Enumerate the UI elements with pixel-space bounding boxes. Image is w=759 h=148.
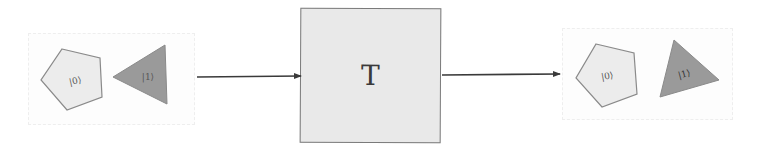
output-arrow xyxy=(442,74,560,75)
output-triangle: |1⟩ xyxy=(660,40,719,97)
output-state: |0⟩ |1⟩ xyxy=(576,40,719,107)
input-state: |0⟩ |1⟩ xyxy=(41,45,167,110)
input-pentagon: |0⟩ xyxy=(41,49,102,110)
input-ket-1-label: |1⟩ xyxy=(142,72,154,83)
input-triangle: |1⟩ xyxy=(113,45,167,104)
output-pentagon: |0⟩ xyxy=(576,44,637,107)
triangle-shape-icon xyxy=(113,45,167,104)
triangle-shape-icon xyxy=(660,40,719,97)
input-arrow xyxy=(197,76,301,77)
diagram-canvas: |0⟩ |1⟩ |0⟩ |1⟩ xyxy=(0,0,759,148)
